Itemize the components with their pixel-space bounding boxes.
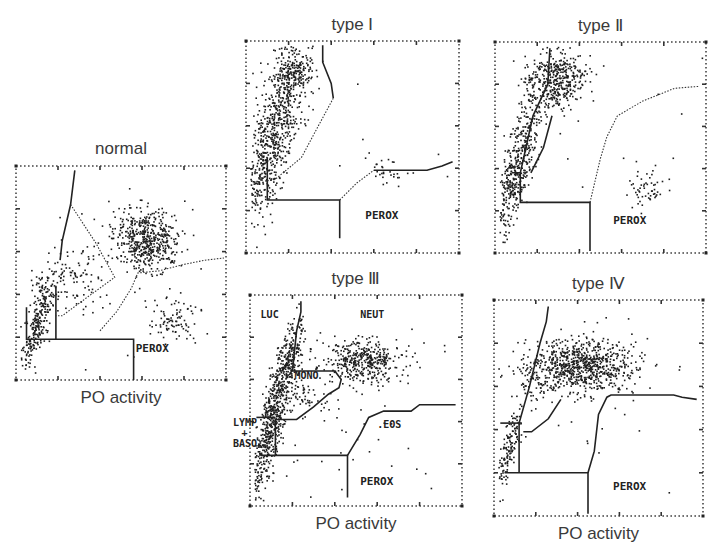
region-label: +	[242, 427, 248, 438]
gate-line	[292, 301, 301, 371]
gate-line	[323, 45, 334, 98]
gate-line	[519, 307, 548, 473]
region-label: PEROX	[365, 209, 398, 222]
gate-line	[275, 371, 341, 455]
panel-title: type Ⅲ	[250, 268, 462, 289]
panel-title: type Ⅱ	[495, 15, 706, 36]
gate-line	[267, 158, 339, 239]
gate-line	[348, 405, 456, 456]
region-label: PEROX	[136, 342, 169, 355]
gate-line	[100, 258, 224, 331]
region-label: LYMP	[233, 417, 257, 428]
data-points	[498, 317, 680, 502]
gate-line	[523, 399, 561, 431]
gate-line	[340, 170, 374, 200]
region-label: MONO	[295, 370, 319, 381]
gate-line	[374, 162, 453, 171]
plot-frame	[494, 300, 703, 516]
gate-line	[60, 170, 75, 260]
x-axis-label: PO activity	[16, 388, 226, 408]
region-label: BASO	[233, 438, 257, 449]
data-points	[20, 188, 208, 374]
x-axis-label: PO activity	[494, 524, 703, 544]
x-axis-label: PO activity	[250, 514, 462, 534]
scatter-plot: PEROX	[246, 41, 459, 253]
region-label: .EOS	[377, 419, 401, 430]
region-label: LUC	[261, 309, 279, 320]
panel-title: type Ⅳ	[494, 273, 703, 294]
scatter-plot: PEROX	[494, 300, 703, 516]
gate-line	[588, 395, 697, 473]
region-label: PEROX	[613, 214, 646, 227]
gate-line	[56, 205, 115, 316]
gate-line	[261, 455, 348, 497]
scatter-plot: LUCNEUTMONOLYMP+BASO.EOSPEROX	[250, 295, 462, 506]
gate-line	[505, 473, 589, 514]
region-label: NEUT	[360, 309, 384, 320]
plot-frame	[16, 166, 226, 380]
region-label: PEROX	[613, 480, 646, 493]
panel-title: type Ⅰ	[246, 14, 459, 35]
region-label: PEROX	[360, 475, 393, 488]
panel-title: normal	[16, 139, 226, 159]
gate-line	[531, 116, 552, 173]
plot-frame	[250, 295, 462, 506]
scatter-plot: PEROX	[495, 42, 706, 253]
data-points	[254, 303, 445, 501]
data-points	[250, 46, 448, 249]
data-points	[500, 47, 704, 243]
scatter-plot: PEROX	[16, 166, 226, 380]
gate-line	[27, 307, 134, 380]
